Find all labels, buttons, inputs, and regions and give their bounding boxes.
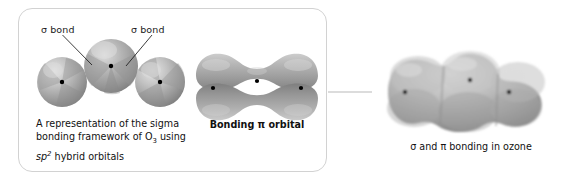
- left-panel-caption: A representation of the sigma bonding fr…: [36, 117, 211, 164]
- caption-line-2-post: using: [157, 131, 186, 142]
- nucleus-dot: [403, 90, 407, 94]
- caption-line-3-post: hybrid orbitals: [52, 152, 125, 163]
- nucleus-dot: [468, 78, 472, 82]
- sigma-bond-label-right: σ bond: [131, 24, 165, 35]
- caption-line-2-pre: bonding framework of O: [36, 131, 153, 142]
- caption-sp-italic: sp: [36, 152, 47, 163]
- right-panel-caption: σ and π bonding in ozone: [378, 141, 564, 152]
- figure-root: σ bond σ bond A representation of the si…: [0, 0, 569, 181]
- nucleus-dot: [507, 90, 511, 94]
- combined-bonding-artwork: [387, 51, 545, 132]
- middle-panel-caption: Bonding π orbital: [196, 119, 318, 130]
- caption-line-1: A representation of the sigma: [36, 118, 179, 129]
- sigma-bond-label-left: σ bond: [41, 24, 75, 35]
